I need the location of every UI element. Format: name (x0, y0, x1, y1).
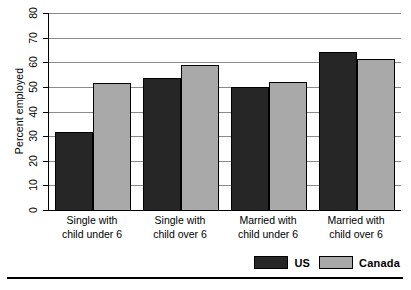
bar-group (137, 13, 225, 210)
x-axis-category-label: Single withchild over 6 (136, 214, 224, 241)
bar-canada[interactable] (181, 65, 219, 210)
legend-item-canada[interactable]: Canada (319, 256, 400, 269)
y-axis-tick-label: 30 (28, 127, 39, 145)
y-axis-tick-label: 0 (28, 201, 39, 219)
bar-canada[interactable] (357, 59, 395, 210)
bar-canada[interactable] (269, 82, 307, 210)
y-axis-tick-label: 70 (28, 29, 39, 47)
y-axis-tick-label: 60 (28, 53, 39, 71)
bar-groups (49, 13, 401, 210)
y-axis-tick-label: 10 (28, 176, 39, 194)
bar-us[interactable] (231, 87, 269, 210)
y-axis-tick-label: 20 (28, 152, 39, 170)
bar-us[interactable] (143, 78, 181, 210)
bar-canada[interactable] (93, 83, 131, 210)
legend-label: US (294, 257, 310, 269)
bottom-divider-rule (7, 277, 403, 279)
x-axis-category-label: Married withchild under 6 (224, 214, 312, 241)
bar-group (49, 13, 137, 210)
legend-label: Canada (359, 257, 400, 269)
y-axis-tick-label: 40 (28, 103, 39, 121)
legend-swatch-canada (319, 256, 353, 269)
y-axis-tick-mark (43, 210, 49, 211)
bar-chart-figure: Percent employed 01020304050607080 Singl… (0, 0, 411, 290)
chart-legend: USCanada (254, 256, 400, 269)
gridline (49, 210, 401, 211)
bar-us[interactable] (55, 132, 93, 210)
x-axis-tick-labels: Single withchild under 6Single withchild… (48, 214, 400, 241)
bar-group (313, 13, 401, 210)
x-axis-category-label: Married withchild over 6 (312, 214, 400, 241)
x-axis-category-label: Single withchild under 6 (48, 214, 136, 241)
bar-us[interactable] (319, 52, 357, 210)
y-axis-tick-label: 50 (28, 78, 39, 96)
legend-item-us[interactable]: US (254, 256, 310, 269)
y-axis-title: Percent employed (13, 51, 25, 171)
legend-swatch-us (254, 256, 288, 269)
plot-area: 01020304050607080 (48, 13, 401, 210)
bar-group (225, 13, 313, 210)
y-axis-tick-label: 80 (28, 4, 39, 22)
